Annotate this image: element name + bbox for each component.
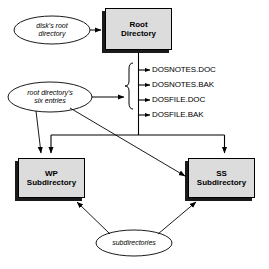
- node-wp-subdirectory-line1: WP: [27, 169, 76, 178]
- root-directory-six-entries-ellipse: [8, 82, 92, 112]
- node-wp-subdirectory[interactable]: WP Subdirectory: [18, 158, 85, 198]
- file-label-dosfile-doc: DOSFILE.DOC: [152, 95, 205, 104]
- directory-structure-diagram: Root Directory WP Subdirectory SS Subdir…: [0, 0, 269, 269]
- subdirectories-ellipse: [96, 230, 172, 256]
- node-root-directory[interactable]: Root Directory: [105, 8, 172, 50]
- file-entries-brace: [125, 63, 133, 109]
- node-wp-subdirectory-line2: Subdirectory: [27, 178, 76, 187]
- node-ss-subdirectory-line2: Subdirectory: [197, 178, 246, 187]
- node-ss-subdirectory-line1: SS: [197, 169, 246, 178]
- file-label-dosnotes-bak: DOSNOTES.BAK: [152, 80, 214, 89]
- node-root-directory-line2: Directory: [121, 29, 156, 38]
- node-ss-subdirectory[interactable]: SS Subdirectory: [188, 158, 255, 198]
- connector-subdirs-to-ss: [158, 202, 196, 234]
- file-label-dosnotes-doc: DOSNOTES.DOC: [152, 65, 216, 74]
- node-root-directory-line1: Root: [121, 20, 156, 29]
- connector-subdirs-to-wp: [77, 202, 110, 234]
- file-label-dosfile-bak: DOSFILE.BAK: [152, 110, 203, 119]
- connector-entries-to-wp: [36, 111, 41, 153]
- disk-root-directory-ellipse: [14, 16, 90, 44]
